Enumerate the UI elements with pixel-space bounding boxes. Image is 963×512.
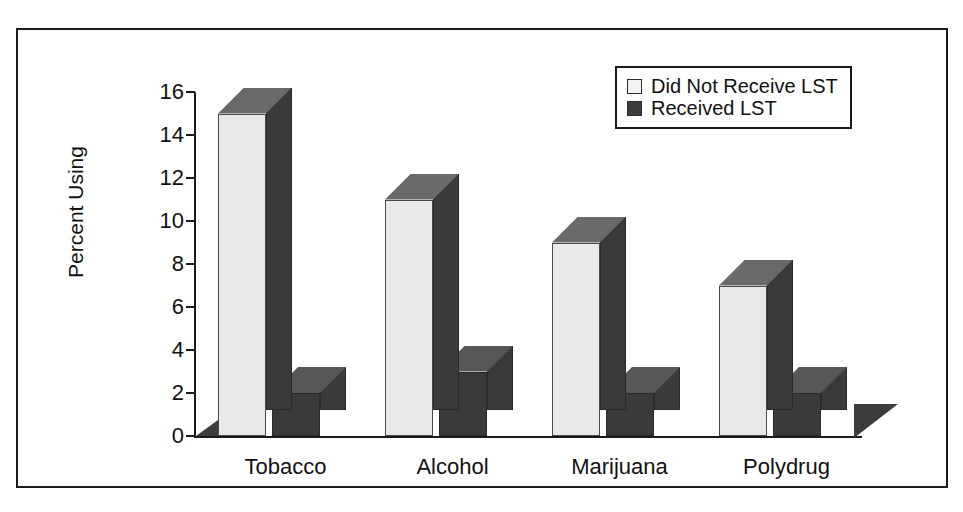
y-axis-tick-label: 10 xyxy=(138,210,184,232)
chart-frame: Percent Using 0246810121416 TobaccoAlcoh… xyxy=(16,28,948,488)
bar-front-face xyxy=(552,243,600,437)
y-axis-tick-label: 4 xyxy=(138,339,184,361)
y-axis-tick-mark xyxy=(186,263,195,265)
y-axis-tick-mark xyxy=(186,306,195,308)
x-axis-category-label: Marijuana xyxy=(571,454,668,480)
y-axis-tick-mark xyxy=(186,177,195,179)
legend-item-did-not-receive: Did Not Receive LST xyxy=(627,76,838,96)
y-axis-tick-label: 6 xyxy=(138,296,184,318)
chart-plot-area: Percent Using 0246810121416 TobaccoAlcoh… xyxy=(18,30,950,486)
y-axis-title: Percent Using xyxy=(64,102,88,322)
y-axis-tick-label: 12 xyxy=(138,167,184,189)
bar-side-face xyxy=(433,174,459,411)
legend-label: Received LST xyxy=(651,98,777,118)
y-axis-tick-mark xyxy=(186,349,195,351)
y-axis-tick-label: 0 xyxy=(138,425,184,447)
y-axis-tick-label: 8 xyxy=(138,253,184,275)
bar-front-face xyxy=(719,286,767,437)
x-axis-line xyxy=(194,436,862,438)
bar-front-face xyxy=(218,114,266,437)
y-axis-line xyxy=(194,92,196,438)
x-axis-category-label: Alcohol xyxy=(416,454,488,480)
y-axis-tick-label: 16 xyxy=(138,81,184,103)
y-axis-tick-mark xyxy=(186,91,195,93)
bar-polydrug-did-not-receive-lst xyxy=(719,260,767,437)
y-axis-tick-mark xyxy=(186,435,195,437)
y-axis-tick-mark xyxy=(186,220,195,222)
y-axis-tick-label: 2 xyxy=(138,382,184,404)
x-axis-category-label: Polydrug xyxy=(743,454,830,480)
y-axis-tick-mark xyxy=(186,392,195,394)
bar-tobacco-did-not-receive-lst xyxy=(218,88,266,437)
y-axis-tick-mark xyxy=(186,134,195,136)
bar-front-face xyxy=(385,200,433,437)
y-axis-tick-label: 14 xyxy=(138,124,184,146)
chart-legend: Did Not Receive LST Received LST xyxy=(615,66,852,129)
legend-label: Did Not Receive LST xyxy=(651,76,838,96)
bar-side-face xyxy=(600,217,626,411)
light-swatch-icon xyxy=(627,79,642,94)
bar-marijuana-did-not-receive-lst xyxy=(552,217,600,437)
legend-item-received: Received LST xyxy=(627,98,838,118)
x-axis-category-label: Tobacco xyxy=(245,454,327,480)
bar-side-face xyxy=(266,88,292,411)
bar-alcohol-did-not-receive-lst xyxy=(385,174,433,437)
dark-swatch-icon xyxy=(627,101,642,116)
bar-side-face xyxy=(767,260,793,411)
y-axis-tick-labels: 0246810121416 xyxy=(138,30,184,486)
floor-wedge-right xyxy=(854,404,898,438)
